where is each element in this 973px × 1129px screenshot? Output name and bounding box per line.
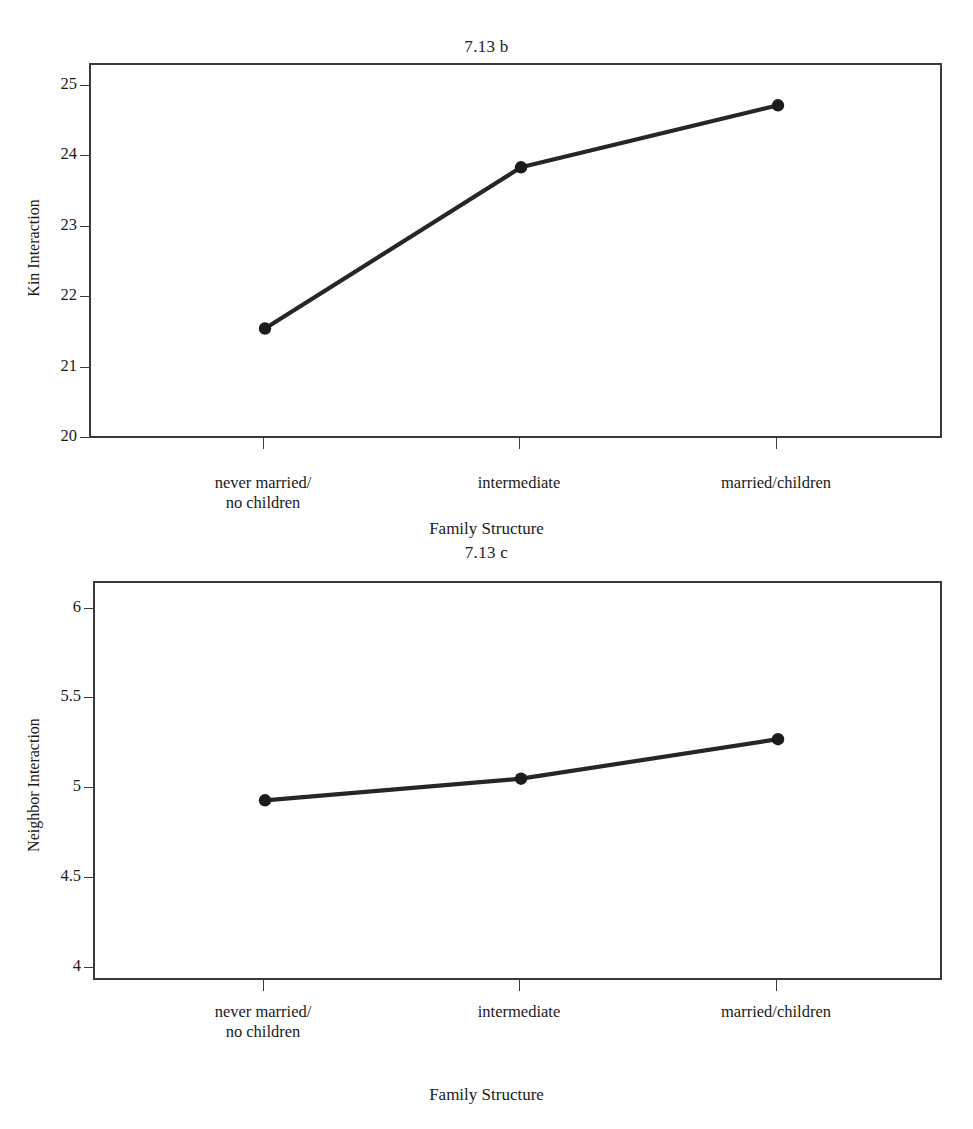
data-point-c-2 <box>772 733 784 745</box>
y-tick-mark-c <box>84 787 93 788</box>
chart-title-c: 7.13 c <box>0 543 973 563</box>
y-tick-mark-c <box>84 697 93 698</box>
y-axis-title-c: Neighbor Interaction <box>25 635 43 935</box>
x-tick-mark-c <box>519 980 520 991</box>
plot-area-c <box>93 581 942 980</box>
x-tick-mark-c <box>776 980 777 991</box>
y-tick-mark-c <box>84 877 93 878</box>
x-tick-label-c: married/children <box>666 1002 886 1022</box>
x-tick-label-c: never married/no children <box>153 1002 373 1042</box>
x-tick-mark-c <box>263 980 264 991</box>
y-tick-label-c: 4 <box>25 956 81 976</box>
x-axis-title-c: Family Structure <box>0 1085 973 1105</box>
data-point-c-1 <box>515 773 527 785</box>
x-tick-label-c: intermediate <box>409 1002 629 1022</box>
figure-page: 7.13 b 252423222120 Kin Interaction neve… <box>0 0 973 1129</box>
y-tick-mark-c <box>84 967 93 968</box>
data-point-c-0 <box>259 794 271 806</box>
chart-panel-c: 7.13 c 65.554.54 Neighbor Interaction ne… <box>0 0 973 1129</box>
y-tick-mark-c <box>84 608 93 609</box>
y-tick-label-c: 6 <box>25 597 81 617</box>
series-line-c <box>95 583 944 982</box>
